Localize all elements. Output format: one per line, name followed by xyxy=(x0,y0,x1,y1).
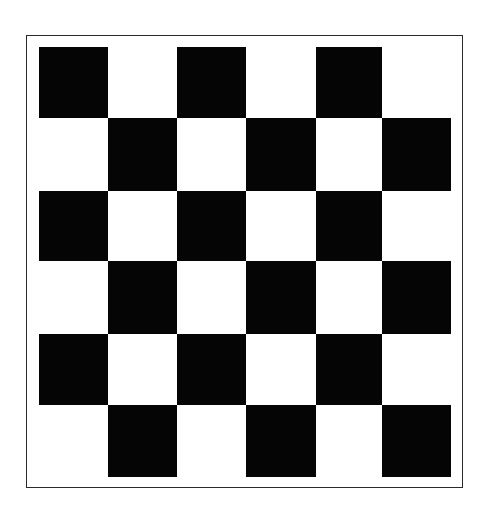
board-square-light xyxy=(108,191,177,261)
board-square-dark xyxy=(382,118,451,191)
board-square-light xyxy=(382,191,451,261)
board-square-light xyxy=(246,47,316,118)
board-square-dark xyxy=(177,191,246,261)
board-square-light xyxy=(108,334,177,405)
board-square-light xyxy=(39,118,108,191)
board-square-light xyxy=(177,261,246,334)
board-square-light xyxy=(39,261,108,334)
board-square-light xyxy=(177,405,246,477)
board-square-light xyxy=(382,334,451,405)
board-square-light xyxy=(246,334,316,405)
board-square-dark xyxy=(177,47,246,118)
board-square-light xyxy=(316,405,382,477)
board-square-light xyxy=(108,47,177,118)
board-square-light xyxy=(316,261,382,334)
board-square-dark xyxy=(382,261,451,334)
board-square-light xyxy=(382,47,451,118)
board-square-dark xyxy=(108,405,177,477)
board-square-dark xyxy=(39,334,108,405)
board-square-light xyxy=(316,118,382,191)
board-square-dark xyxy=(246,261,316,334)
board-square-dark xyxy=(39,191,108,261)
board-square-dark xyxy=(316,191,382,261)
board-square-dark xyxy=(246,405,316,477)
board-square-light xyxy=(177,118,246,191)
board-square-dark xyxy=(246,118,316,191)
board-square-dark xyxy=(177,334,246,405)
board-square-dark xyxy=(108,261,177,334)
checkerboard-grid xyxy=(39,47,451,477)
board-square-dark xyxy=(316,47,382,118)
board-square-dark xyxy=(39,47,108,118)
board-square-dark xyxy=(382,405,451,477)
board-square-light xyxy=(39,405,108,477)
board-square-light xyxy=(246,191,316,261)
board-square-dark xyxy=(108,118,177,191)
board-square-dark xyxy=(316,334,382,405)
